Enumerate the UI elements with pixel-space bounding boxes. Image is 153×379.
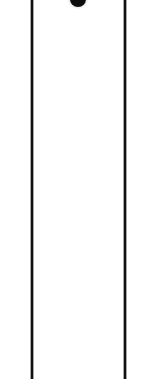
right-vertical-rule: [124, 0, 126, 379]
column-interior: [33, 0, 124, 379]
left-vertical-rule: [31, 0, 33, 379]
scan-fragment-canvas: [0, 0, 153, 379]
